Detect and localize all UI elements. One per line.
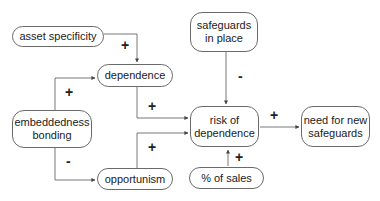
node-dependence: dependence [97, 64, 173, 87]
node-opportunism: opportunism [97, 168, 173, 190]
edge-embeddedness-to-dependence [55, 78, 95, 110]
node-label-line2: in place [205, 32, 243, 45]
node-asset-specificity: asset specificity [12, 26, 104, 47]
node-label: opportunism [105, 173, 166, 186]
sign-embeddedness-to-opportunism: - [66, 154, 71, 168]
node-label-line1: need for new [304, 114, 368, 127]
sign-risk-to-need: + [270, 108, 278, 122]
node-embeddedness-bonding: embeddedness bonding [12, 110, 92, 148]
node-label-line1: risk of [210, 114, 239, 127]
sign-embeddedness-to-dependence: + [65, 85, 73, 99]
node-label-line2: dependence [194, 127, 255, 140]
node-need-for-new-safeguards: need for new safeguards [301, 106, 370, 147]
node-label: asset specificity [19, 30, 96, 43]
node-label-line1: safeguards [197, 19, 251, 32]
sign-opportunism-to-risk: + [148, 140, 156, 154]
node-pct-of-sales: % of sales [189, 167, 264, 189]
edge-dependence-to-risk [137, 87, 188, 118]
node-label-line2: safeguards [308, 127, 362, 140]
sign-asset-to-dependence: + [121, 38, 129, 52]
edge-opportunism-to-risk [137, 133, 188, 168]
node-label: dependence [105, 69, 166, 82]
node-safeguards-in-place: safeguards in place [190, 12, 258, 52]
node-label: % of sales [201, 172, 252, 185]
node-label-line1: embeddedness [14, 116, 89, 129]
sign-sales-to-risk: + [235, 150, 243, 164]
sign-dependence-to-risk: + [148, 99, 156, 113]
node-label-line2: bonding [32, 129, 71, 142]
sign-safeguards-to-risk: - [238, 69, 243, 83]
node-risk-of-dependence: risk of dependence [190, 106, 259, 147]
edge-embeddedness-to-opportunism [55, 148, 95, 180]
